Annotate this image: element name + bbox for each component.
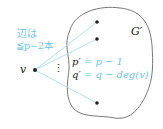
q-prime-symbol: q′ [72, 69, 81, 80]
p-prime-rhs: = p − 1 [81, 56, 123, 67]
vertex-v-label: v [20, 64, 26, 75]
ellipsis: ⋮ [53, 63, 64, 74]
edge-note-line2: ≦p−2本 [16, 41, 54, 51]
p-prime-equation: p′ = p − 1 [72, 57, 123, 67]
q-prime-equation: q′ = q − deg(v) [72, 70, 149, 80]
vertex-1 [95, 20, 99, 24]
edge-note-line1: 辺は [17, 29, 37, 39]
region-label: G′ [131, 26, 142, 37]
vertex-v [33, 68, 37, 72]
p-prime-symbol: p′ [72, 56, 81, 67]
q-prime-rhs: = q − deg(v) [81, 69, 149, 80]
vertex-2 [95, 37, 99, 41]
vertex-3 [95, 101, 99, 105]
